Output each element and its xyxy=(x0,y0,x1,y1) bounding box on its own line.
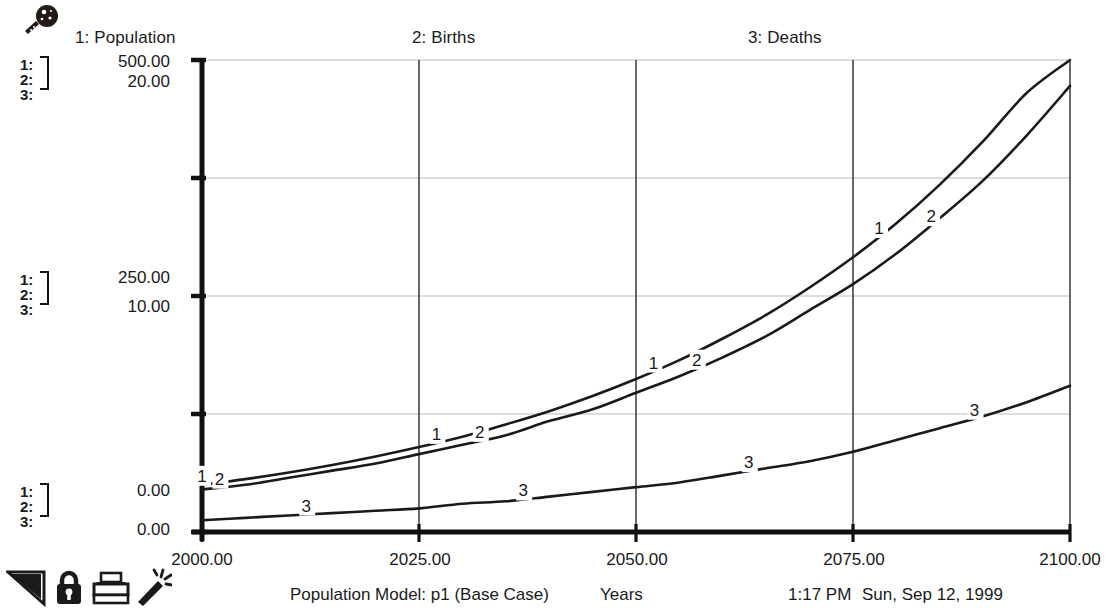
y-tick-label-0-secondary: 0.00 xyxy=(60,520,170,540)
x-tick-label-2050: 2050.00 xyxy=(577,550,697,570)
label-text: 2 xyxy=(215,470,224,489)
x-tick-label-2000: 2000.00 xyxy=(142,550,262,570)
series-inline-label: 2 xyxy=(212,469,228,489)
axis-bracket-icon xyxy=(40,56,49,90)
series-inline-label: 2 xyxy=(924,206,940,226)
series-inline-label: 1 xyxy=(429,424,445,444)
legend-item-population[interactable]: 1: Population xyxy=(75,28,176,48)
series-inline-label: 1 xyxy=(195,466,211,486)
magic-wand-icon[interactable] xyxy=(134,568,172,612)
label-text: 3 xyxy=(518,481,527,500)
label-text: 2 xyxy=(692,351,701,370)
series-inline-label: 2 xyxy=(690,350,706,370)
y-tick-label-250: 250.00 xyxy=(60,268,170,288)
label-text: 1 xyxy=(649,354,658,373)
lock-icon[interactable] xyxy=(54,568,84,612)
chart-axis-ticks xyxy=(191,60,1070,542)
y-axis-series-stack-top: 1: 2: 3: xyxy=(20,57,54,102)
axis-bracket-icon xyxy=(40,271,49,305)
series-inline-label: 3 xyxy=(299,496,315,516)
chart-plot-area[interactable]: 111122223333 xyxy=(180,45,1081,545)
label-text: 3 xyxy=(301,497,310,516)
label-text: 2 xyxy=(926,207,935,226)
chart-axes xyxy=(192,60,1070,541)
page-corner-icon[interactable] xyxy=(6,568,48,612)
series-inline-label: 3 xyxy=(742,452,758,472)
series-inline-label: 3 xyxy=(968,400,984,420)
printer-icon[interactable] xyxy=(90,568,132,612)
status-date: Sun, Sep 12, 1999 xyxy=(862,585,1003,605)
axis-bracket-icon xyxy=(40,483,49,517)
x-tick-label-2025: 2025.00 xyxy=(360,550,480,570)
y-tick-label-0-primary: 0.00 xyxy=(60,481,170,501)
label-text: 2 xyxy=(475,423,484,442)
label-text: 1 xyxy=(432,425,441,444)
y-tick-label-500: 500.00 xyxy=(60,52,170,72)
status-time: 1:17 PM xyxy=(788,585,851,605)
series-inline-label: 1 xyxy=(646,353,662,373)
y-axis-series-stack-bottom: 1: 2: 3: xyxy=(20,484,54,529)
y-axis-series-stack-mid: 1: 2: 3: xyxy=(20,272,54,317)
y-tick-label-10: 10.00 xyxy=(60,297,170,317)
series-inline-label: 3 xyxy=(516,480,532,500)
label-text: 1 xyxy=(874,219,883,238)
status-x-axis-label: Years xyxy=(600,585,643,605)
label-text: 3 xyxy=(970,401,979,420)
label-text: 3 xyxy=(744,453,753,472)
chart-canvas: 111122223333 xyxy=(180,45,1081,545)
series-inline-label: 1 xyxy=(872,218,888,238)
series-inline-label: 2 xyxy=(473,422,489,442)
bottom-toolbar xyxy=(2,568,172,612)
status-model-title: Population Model: p1 (Base Case) xyxy=(290,585,549,605)
x-tick-label-2100: 2100.00 xyxy=(1010,550,1105,570)
chart-legend: 1: Population 2: Births 3: Deaths xyxy=(0,8,1081,44)
y-tick-label-20: 20.00 xyxy=(60,72,170,92)
x-tick-label-2075: 2075.00 xyxy=(794,550,914,570)
label-text: 1 xyxy=(197,467,206,486)
